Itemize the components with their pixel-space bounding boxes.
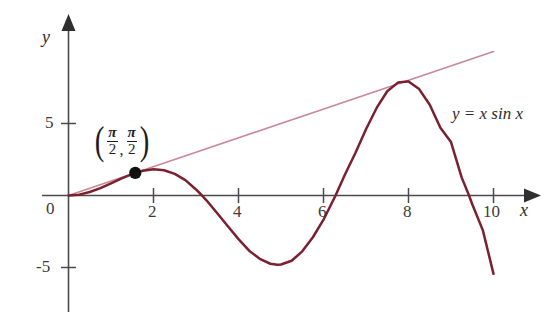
- y-tick-label-5: 5: [45, 113, 54, 133]
- first-numerator: π: [107, 125, 117, 140]
- x-tick-label-4: 4: [233, 202, 242, 222]
- x-tick-label-6: 6: [318, 202, 327, 222]
- x-tick-label-8: 8: [403, 202, 412, 222]
- first-coordinate-fraction: π 2: [107, 125, 117, 157]
- curve-equation-label: y = x sin x: [452, 104, 523, 124]
- origin-tick-label: 0: [46, 199, 55, 219]
- y-axis-arrowhead: [62, 14, 76, 31]
- math-figure: y x 0 2 4 6 8 10 5 -5 y = x sin x ( π 2 …: [0, 0, 560, 319]
- open-paren: (: [95, 121, 105, 161]
- plot-canvas: [0, 0, 560, 319]
- close-paren: ): [140, 121, 150, 161]
- second-coordinate-fraction: π 2: [127, 125, 137, 157]
- second-denominator: 2: [127, 142, 137, 157]
- x-tick-label-2: 2: [148, 202, 157, 222]
- tangency-point-label: ( π 2 , π 2 ): [93, 121, 151, 161]
- y-tick-label-minus5: -5: [36, 257, 50, 277]
- tangency-point-marker: [129, 167, 141, 179]
- x-tick-label-10: 10: [483, 202, 500, 222]
- coordinate-comma: ,: [120, 141, 124, 161]
- x-axis-label: x: [520, 200, 528, 221]
- second-numerator: π: [127, 125, 137, 140]
- y-axis-label: y: [42, 27, 50, 48]
- first-denominator: 2: [108, 142, 118, 157]
